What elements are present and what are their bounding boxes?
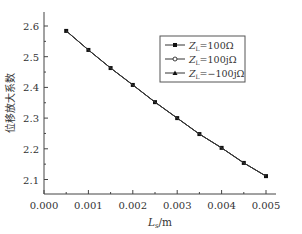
y-tick-label: 2.3 [23, 113, 39, 124]
legend-label: ZL=100Ω [188, 40, 234, 52]
y-tick-label: 2.4 [23, 82, 39, 93]
x-tick-label: 0.004 [207, 200, 236, 211]
x-tick-label: 0.005 [252, 200, 281, 211]
y-tick-label: 2.2 [23, 144, 39, 155]
x-tick-label: 0.003 [163, 200, 192, 211]
x-tick-label: 0.001 [74, 200, 103, 211]
y-axis-label: 位移放大系数 [4, 73, 16, 133]
y-tick-label: 2.6 [23, 21, 39, 32]
legend-label: ZL=100jΩ [188, 54, 237, 66]
legend: ZL=100ΩZL=100jΩZL=−100jΩ [160, 36, 245, 82]
chart-canvas: 2.12.22.32.42.52.60.0000.0010.0020.0030.… [0, 0, 302, 234]
circle-marker-icon [173, 57, 177, 61]
x-tick-label: 0.002 [118, 200, 147, 211]
y-tick-label: 2.5 [23, 52, 39, 63]
y-tick-label: 2.1 [23, 175, 39, 186]
line-chart: 2.12.22.32.42.52.60.0000.0010.0020.0030.… [0, 0, 302, 234]
x-tick-label: 0.000 [30, 200, 59, 211]
x-axis-label: Ls/m [147, 216, 172, 230]
square-marker-icon [173, 43, 177, 47]
